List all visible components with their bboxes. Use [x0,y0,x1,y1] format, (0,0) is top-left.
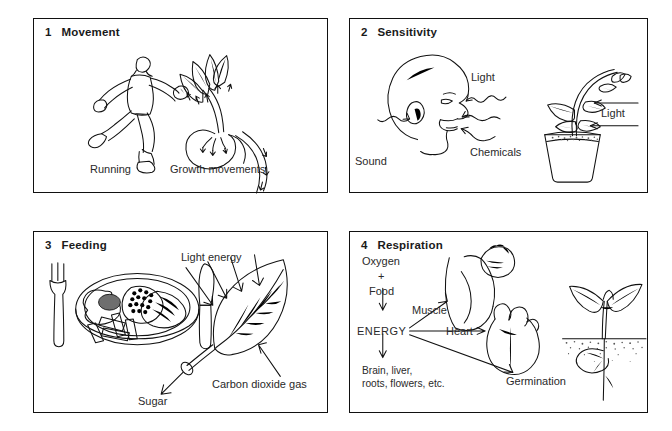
sugar-arrow [161,372,183,394]
panel-movement: 1 Movement [33,18,328,193]
caption-muscle: Muscle [412,304,447,316]
caption-growth-movements: Growth movements [170,163,265,175]
caption-germination: Germination [506,375,566,387]
caption-running: Running [90,163,131,175]
caption-oxygen: Oxygen [362,255,400,267]
caption-light-energy: Light energy [181,251,242,263]
caption-sound: Sound [355,155,387,167]
fork-icon-illustration [50,263,66,347]
plate-of-food-illustration [76,274,199,345]
flexed-arm-illustration [445,245,514,331]
caption-outputs-line-2: roots, flowers, etc. [362,378,445,389]
human-heart-illustration [487,304,540,375]
caption-energy: ENERGY [357,325,406,337]
characteristics-of-living-things-figure: 1 Movement [0,0,672,431]
panel-sensitivity: 2 Sensitivity [349,18,648,193]
sound-wave-to-ear [378,113,410,121]
caption-light-head: Light [471,71,495,83]
human-head-profile-figure [388,55,469,155]
running-man-figure [88,57,188,173]
carbon-dioxide-arrow [258,343,280,377]
caption-plus-sign: + [378,270,384,282]
germinating-seedling-illustration [563,284,646,400]
panel-feeding: 3 Feeding [33,231,328,413]
panel-respiration: 4 Respiration [349,231,648,413]
caption-outputs-line-1: Brain, liver, [362,365,412,376]
panel-sensitivity-artwork [350,19,647,192]
light-wave-to-eye [466,96,506,103]
caption-light-plant: Light [601,107,625,119]
caption-heart: Heart [446,325,473,337]
caption-chemicals: Chemicals [470,146,521,158]
caption-carbon-dioxide-gas: Carbon dioxide gas [212,378,307,390]
caption-sugar: Sugar [138,395,167,407]
knife-icon-illustration [199,264,214,349]
leaf-illustration [179,260,288,377]
caption-food: Food [369,285,394,297]
soil-stipple [552,136,598,141]
